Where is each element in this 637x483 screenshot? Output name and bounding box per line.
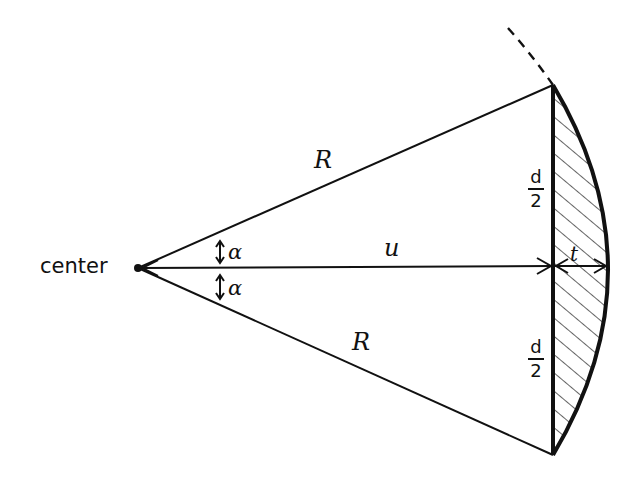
center-label: center — [40, 256, 108, 277]
radius-top-label: R — [314, 148, 332, 172]
center-point — [134, 264, 142, 272]
half-chord-bottom-denominator: 2 — [530, 362, 541, 380]
radius-bottom — [138, 268, 553, 455]
radius-bottom-label: R — [352, 330, 370, 354]
half-chord-top-denominator: 2 — [530, 192, 541, 210]
apothem-label: u — [384, 236, 399, 260]
dashed-arc-extension — [508, 28, 553, 85]
half-chord-bottom-numerator: d — [530, 338, 541, 356]
sagitta-label: t — [570, 244, 578, 264]
half-chord-bottom-label: d 2 — [528, 338, 544, 380]
circular-segment-diagram — [0, 0, 637, 483]
angle-bottom-label: α — [228, 278, 242, 299]
half-chord-top-label: d 2 — [528, 168, 544, 210]
half-chord-top-numerator: d — [530, 168, 541, 186]
angle-arrow-bottom — [216, 275, 224, 299]
apothem-line — [140, 266, 551, 268]
radius-top — [138, 85, 553, 268]
angle-arrow-top — [216, 241, 224, 263]
angle-top-label: α — [228, 242, 242, 263]
